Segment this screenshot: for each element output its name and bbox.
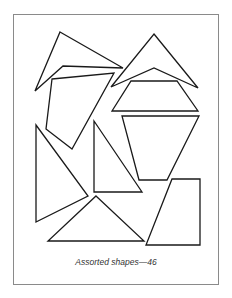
trapezoid-shape-middle-right bbox=[112, 81, 198, 111]
kite-shape-top-left bbox=[35, 32, 123, 91]
triangle-shape-left bbox=[36, 125, 88, 222]
triangle-shape-bottom bbox=[48, 196, 144, 241]
worksheet-caption: Assorted shapes—46 bbox=[0, 257, 232, 267]
inverted-trapezoid-shape bbox=[122, 116, 199, 180]
trapezoid-shape-bottom-right bbox=[146, 179, 200, 245]
shapes-drawing bbox=[0, 0, 232, 298]
arrowhead-shape-top-right bbox=[111, 34, 198, 88]
quadrilateral-shape bbox=[46, 73, 114, 149]
right-triangle-shape-middle bbox=[94, 121, 142, 192]
